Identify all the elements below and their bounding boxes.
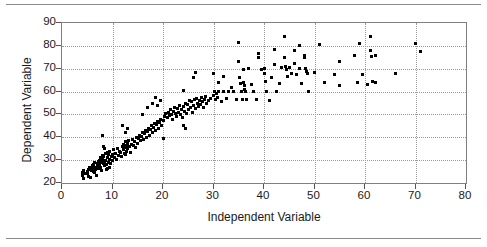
data-point (182, 89, 185, 92)
data-point (252, 90, 255, 93)
data-point (290, 72, 293, 75)
data-point (220, 100, 223, 103)
data-point (273, 48, 276, 51)
data-point (154, 96, 157, 99)
data-point (182, 105, 185, 108)
data-point (191, 111, 194, 114)
data-point (414, 42, 417, 45)
data-point (356, 81, 359, 84)
data-point (264, 80, 267, 83)
data-point (298, 44, 301, 47)
data-point (283, 35, 286, 38)
data-point (162, 119, 165, 122)
data-point (230, 86, 233, 89)
x-tick-mark (364, 184, 365, 189)
x-tick-mark (112, 184, 113, 189)
data-point (247, 67, 250, 70)
data-point (303, 56, 306, 59)
data-point (419, 50, 422, 53)
data-point (141, 113, 144, 116)
data-point (184, 127, 187, 130)
data-point (181, 116, 184, 119)
data-point (338, 84, 341, 87)
data-point (250, 83, 253, 86)
data-point (212, 72, 215, 75)
data-point (216, 96, 219, 99)
data-point (160, 124, 163, 127)
data-point (108, 166, 111, 169)
data-point (159, 99, 162, 102)
data-point (295, 73, 298, 76)
data-point (192, 76, 195, 79)
x-tick-label: 50 (294, 190, 334, 202)
data-point (286, 75, 289, 78)
data-point (265, 90, 268, 93)
data-point (171, 118, 174, 121)
data-point (175, 115, 178, 118)
data-point (300, 82, 303, 85)
data-point (242, 68, 245, 71)
data-point (217, 81, 220, 84)
data-point (394, 72, 397, 75)
data-point (146, 106, 149, 109)
top-divider-rule (6, 4, 481, 5)
data-point (178, 104, 181, 107)
data-point (129, 151, 132, 154)
data-point (217, 90, 220, 93)
data-point (156, 104, 159, 107)
data-point (126, 127, 129, 130)
x-tick-label: 30 (193, 190, 233, 202)
x-axis-label: Independent Variable (61, 210, 467, 224)
data-point (209, 97, 212, 100)
data-point (124, 153, 127, 156)
data-point (298, 67, 301, 70)
scatter-plot-figure: 2030405060708090 01020304050607080 Indep… (0, 0, 487, 247)
data-point (263, 67, 266, 70)
data-point (255, 98, 258, 101)
data-point (100, 169, 103, 172)
data-point (225, 97, 228, 100)
data-point (124, 131, 127, 134)
data-point (237, 41, 240, 44)
y-tick-label: 90 (16, 16, 56, 28)
data-point (268, 99, 271, 102)
data-point (237, 60, 240, 63)
bottom-divider-rule (6, 238, 481, 239)
x-tick-label: 0 (41, 190, 81, 202)
data-point (293, 62, 296, 65)
data-point (358, 42, 361, 45)
data-point (115, 158, 118, 161)
data-point (103, 147, 106, 150)
data-point (313, 71, 316, 74)
data-point (170, 113, 173, 116)
data-point (283, 56, 286, 59)
data-point (185, 112, 188, 115)
data-point (338, 60, 341, 63)
data-point (134, 146, 137, 149)
data-point (370, 55, 373, 58)
data-point (374, 54, 377, 57)
data-point (232, 90, 235, 93)
plot-area (61, 22, 467, 184)
data-point (278, 82, 281, 85)
data-point (238, 76, 241, 79)
x-tick-mark (314, 184, 315, 189)
x-tick-mark (61, 184, 62, 189)
x-tick-label: 10 (92, 190, 132, 202)
data-point (101, 134, 104, 137)
data-point (204, 95, 207, 98)
data-point (222, 75, 225, 78)
data-point (257, 56, 260, 59)
data-point (353, 54, 356, 57)
data-point (82, 177, 85, 180)
data-point (222, 90, 225, 93)
data-points-layer (62, 23, 466, 183)
data-point (235, 98, 238, 101)
data-point (275, 90, 278, 93)
x-tick-mark (465, 184, 466, 189)
data-point (263, 72, 266, 75)
data-point (244, 90, 247, 93)
data-point (333, 73, 336, 76)
data-point (120, 155, 123, 158)
x-tick-label: 60 (344, 190, 384, 202)
